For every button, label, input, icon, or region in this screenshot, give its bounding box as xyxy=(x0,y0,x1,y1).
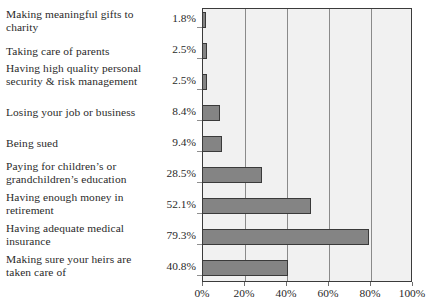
chart-row: Having high quality personal security & … xyxy=(0,72,430,103)
x-axis-tick xyxy=(244,282,245,286)
value-label: 28.5% xyxy=(140,167,196,179)
bar xyxy=(202,105,220,121)
value-label: 79.3% xyxy=(140,229,196,241)
category-label: Making meaningful gifts to charity xyxy=(6,8,156,34)
category-label: Being sued xyxy=(6,137,156,151)
x-axis-tick-label: 0% xyxy=(182,287,222,299)
y-axis-tick xyxy=(197,244,202,245)
x-axis-tick xyxy=(328,282,329,286)
category-label: Taking care of parents xyxy=(6,45,156,59)
bar xyxy=(202,229,369,245)
bar xyxy=(202,198,311,214)
y-axis-tick xyxy=(197,27,202,28)
value-label: 1.8% xyxy=(140,12,196,24)
x-axis-tick xyxy=(370,282,371,286)
y-axis-tick xyxy=(197,151,202,152)
bar xyxy=(202,74,207,90)
y-axis-tick xyxy=(197,89,202,90)
bar xyxy=(202,136,222,152)
value-label: 9.4% xyxy=(140,136,196,148)
x-axis-tick-label: 80% xyxy=(350,287,390,299)
y-axis-tick xyxy=(197,58,202,59)
bar xyxy=(202,260,288,276)
x-axis-tick xyxy=(286,282,287,286)
y-axis-tick xyxy=(197,213,202,214)
category-label: Having enough money in retirement xyxy=(6,191,156,217)
y-axis-tick xyxy=(197,182,202,183)
bar xyxy=(202,12,206,28)
value-label: 2.5% xyxy=(140,43,196,55)
category-label: Losing your job or business xyxy=(6,106,156,120)
x-axis-tick-label: 20% xyxy=(224,287,264,299)
horizontal-bar-chart: Making meaningful gifts to charity1.8%Ta… xyxy=(0,0,430,303)
bar xyxy=(202,167,262,183)
x-axis-tick-label: 40% xyxy=(266,287,306,299)
value-label: 40.8% xyxy=(140,260,196,272)
category-label: Having high quality personal security & … xyxy=(6,62,156,88)
category-label: Having adequate medical insurance xyxy=(6,222,156,248)
y-axis-tick xyxy=(197,275,202,276)
y-axis-tick xyxy=(197,120,202,121)
value-label: 8.4% xyxy=(140,105,196,117)
value-label: 52.1% xyxy=(140,198,196,210)
category-label: Making sure your heirs are taken care of xyxy=(6,253,156,279)
category-label: Paying for children’s or grandchildren’s… xyxy=(6,160,156,186)
x-axis-tick xyxy=(202,282,203,286)
value-label: 2.5% xyxy=(140,74,196,86)
bar xyxy=(202,43,207,59)
x-axis-tick-label: 100% xyxy=(392,287,430,299)
x-axis-tick xyxy=(412,282,413,286)
chart-row: Making meaningful gifts to charity1.8% xyxy=(0,10,430,41)
x-axis-tick-label: 60% xyxy=(308,287,348,299)
chart-row: Losing your job or business8.4% xyxy=(0,103,430,134)
chart-row: Making sure your heirs are taken care of… xyxy=(0,258,430,289)
